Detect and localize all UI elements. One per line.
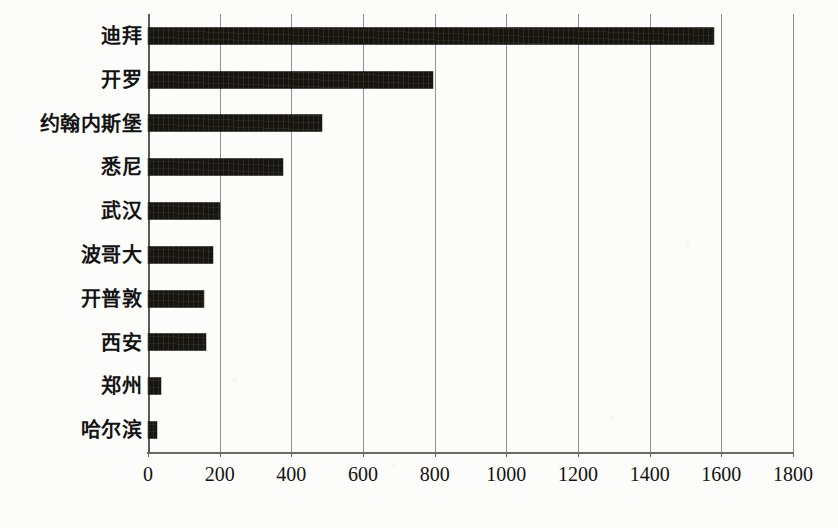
y-tick-label: 约翰内斯堡 xyxy=(2,113,142,135)
x-tick-mark xyxy=(291,452,292,457)
x-tick-mark xyxy=(650,452,651,457)
y-tick-label: 哈尔滨 xyxy=(2,419,142,441)
bar xyxy=(148,27,714,44)
gridline xyxy=(793,14,794,452)
bar xyxy=(148,290,204,307)
y-tick-label: 开罗 xyxy=(2,69,142,91)
x-tick-mark xyxy=(793,452,794,457)
bar-row xyxy=(148,189,793,233)
bar-row xyxy=(148,233,793,277)
x-tick-mark xyxy=(220,452,221,457)
bar-row xyxy=(148,277,793,321)
x-tick-label: 600 xyxy=(348,462,378,486)
y-tick-label: 悉尼 xyxy=(2,156,142,178)
x-axis-line xyxy=(147,452,794,454)
bar xyxy=(148,203,220,220)
bar-row xyxy=(148,408,793,452)
y-tick-label: 迪拜 xyxy=(2,25,142,47)
x-tick-label: 1200 xyxy=(558,462,598,486)
x-tick-mark xyxy=(721,452,722,457)
x-tick-label: 0 xyxy=(143,462,153,486)
x-axis-labels: 020040060080010001200140016001800 xyxy=(0,458,838,494)
x-tick-mark xyxy=(363,452,364,457)
x-tick-label: 1400 xyxy=(630,462,670,486)
bar xyxy=(148,246,213,263)
x-tick-mark xyxy=(578,452,579,457)
bar xyxy=(148,115,322,132)
x-tick-label: 200 xyxy=(205,462,235,486)
x-tick-mark xyxy=(506,452,507,457)
y-tick-label: 武汉 xyxy=(2,200,142,222)
bar xyxy=(148,159,283,176)
x-tick-label: 1000 xyxy=(486,462,526,486)
y-tick-label: 郑州 xyxy=(2,375,142,397)
x-tick-label: 1600 xyxy=(701,462,741,486)
bar-row xyxy=(148,58,793,102)
x-tick-label: 800 xyxy=(420,462,450,486)
bar-row xyxy=(148,321,793,365)
bar-row xyxy=(148,145,793,189)
bar-row xyxy=(148,14,793,58)
x-tick-mark xyxy=(435,452,436,457)
y-tick-label: 西安 xyxy=(2,332,142,354)
bar-row xyxy=(148,102,793,146)
y-tick-label: 波哥大 xyxy=(2,244,142,266)
y-tick-label: 开普敦 xyxy=(2,288,142,310)
plot-area xyxy=(148,14,793,452)
bar xyxy=(148,422,157,439)
bar xyxy=(148,71,433,88)
bar-chart: 迪拜开罗约翰内斯堡悉尼武汉波哥大开普敦西安郑州哈尔滨 0200400600800… xyxy=(0,0,838,528)
x-tick-label: 400 xyxy=(276,462,306,486)
y-axis-labels: 迪拜开罗约翰内斯堡悉尼武汉波哥大开普敦西安郑州哈尔滨 xyxy=(0,14,142,452)
x-tick-mark xyxy=(148,452,149,457)
bar xyxy=(148,334,206,351)
bar-row xyxy=(148,364,793,408)
bar xyxy=(148,378,161,395)
x-tick-label: 1800 xyxy=(773,462,813,486)
